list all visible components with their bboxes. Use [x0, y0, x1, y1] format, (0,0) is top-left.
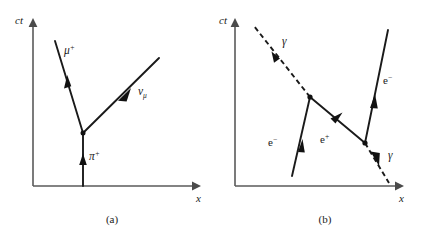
- panel-b-label-outgoing-photon: γ: [388, 149, 393, 162]
- panel-a-label-muon-plus: μ+: [63, 43, 75, 57]
- spacetime-diagram-figure: ct x μ+ νμ π+ (a): [0, 0, 434, 239]
- panel-b-outgoing-electron-worldline: [365, 30, 388, 143]
- panel-a-neutrino-worldline: [83, 58, 159, 133]
- panel-b-y-axis-label: ct: [219, 14, 228, 26]
- panel-b-x-axis-arrowhead: [395, 182, 404, 191]
- panel-b-outgoing-photon-arrowhead: [371, 152, 380, 167]
- panel-b-label-outgoing-electron: e−: [383, 73, 392, 86]
- panel-a-decay-vertex: [81, 131, 86, 136]
- panel-a-label-muon-neutrino: νμ: [138, 85, 147, 100]
- panel-b-label-incoming-photon: γ: [282, 35, 287, 48]
- panel-a-caption: (a): [106, 213, 119, 226]
- panel-a-y-axis-arrowhead: [29, 18, 38, 27]
- panel-b-incoming-electron-worldline: [292, 97, 310, 176]
- panel-b-y-axis-arrowhead: [231, 18, 240, 27]
- panel-a-neutrino-arrowhead: [118, 88, 131, 102]
- panel-b-label-incoming-electron: e−: [268, 135, 277, 148]
- panel-b-caption: (b): [319, 213, 332, 226]
- panel-a-y-axis-label: ct: [15, 14, 24, 26]
- panel-b-label-positron: e+: [320, 132, 329, 145]
- panel-a-pion-arrowhead: [79, 154, 87, 166]
- panel-b-outgoing-photon-worldline: [365, 143, 389, 183]
- panel-a-x-axis-label: x: [195, 192, 201, 204]
- panel-a-axes: [29, 18, 201, 190]
- panel-a-label-pion-plus: π+: [89, 149, 100, 162]
- panel-a-diagram: ct x μ+ νμ π+ (a): [0, 0, 217, 239]
- panel-b-upper-vertex: [307, 94, 312, 99]
- panel-b-lower-vertex: [362, 140, 367, 145]
- panel-a-x-axis-arrowhead: [192, 182, 201, 191]
- panel-b-x-axis-label: x: [398, 192, 404, 204]
- panel-b-diagram: ct x γ e− e+ e− γ (b): [217, 0, 434, 239]
